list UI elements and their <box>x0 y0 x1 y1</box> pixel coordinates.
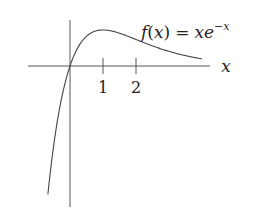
function-curve <box>48 30 202 194</box>
label-exponent: −x <box>214 20 230 33</box>
label-paren-close: ) <box>164 22 171 42</box>
function-label: f(x)=xe−x <box>139 20 230 42</box>
label-xe: xe <box>194 22 214 42</box>
x-axis-label: x <box>221 56 231 76</box>
function-plot: 1 2 x f(x)=xe−x <box>0 0 272 213</box>
label-x-var: x <box>154 22 164 42</box>
label-eq: = <box>175 22 189 42</box>
label-paren-open: ( <box>147 22 154 42</box>
tick-label-1: 1 <box>98 78 108 97</box>
tick-label-2: 2 <box>131 78 141 97</box>
